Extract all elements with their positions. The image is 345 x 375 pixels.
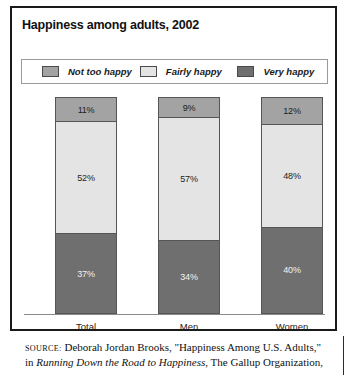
x-axis-label-total: Total bbox=[55, 321, 117, 332]
legend-swatch-not-too-happy bbox=[42, 66, 59, 77]
chart-legend: Not too happy Fairly happy Very happy bbox=[21, 59, 328, 84]
bar-segment-not-too-happy: 11% bbox=[55, 97, 117, 122]
legend-label-very-happy: Very happy bbox=[263, 66, 314, 77]
legend-item-very-happy: Very happy bbox=[229, 66, 327, 77]
bar-segment-not-too-happy: 12% bbox=[261, 97, 323, 125]
bar-segment-very-happy: 40% bbox=[261, 228, 323, 314]
bar-segment-value: 48% bbox=[283, 171, 300, 181]
bar-segment-not-too-happy: 9% bbox=[158, 97, 220, 118]
source-line-2: , The Gallup Organization, bbox=[205, 356, 323, 368]
bar-segment-value: 40% bbox=[283, 265, 300, 275]
stacked-bar-women: 12% 48% 40% bbox=[261, 97, 323, 314]
legend-swatch-fairly-happy bbox=[140, 66, 157, 77]
stacked-bar-men: 9% 57% 34% bbox=[158, 97, 220, 314]
legend-label-fairly-happy: Fairly happy bbox=[166, 66, 222, 77]
legend-label-not-too-happy: Not too happy bbox=[68, 66, 132, 77]
x-axis-label-women: Women bbox=[261, 321, 323, 332]
source-note: SOURCE: Deborah Jordan Brooks, "Happines… bbox=[25, 341, 330, 369]
bar-segment-value: 9% bbox=[183, 103, 196, 113]
bar-segment-very-happy: 34% bbox=[158, 241, 220, 314]
bar-segment-fairly-happy: 57% bbox=[158, 118, 220, 240]
legend-item-fairly-happy: Fairly happy bbox=[132, 66, 230, 77]
chart-plot-area: 11% 52% 37% 9% 57% 34% 12% bbox=[24, 96, 325, 332]
bar-segment-value: 57% bbox=[180, 174, 197, 184]
bar-segment-value: 34% bbox=[180, 272, 197, 282]
bar-segment-fairly-happy: 52% bbox=[55, 122, 117, 234]
stacked-bar-total: 11% 52% 37% bbox=[55, 97, 117, 314]
bar-segment-very-happy: 37% bbox=[55, 234, 117, 314]
page-title: Happiness among adults, 2002 bbox=[22, 18, 199, 32]
bar-segment-value: 11% bbox=[78, 105, 95, 115]
source-label: SOURCE: bbox=[25, 344, 62, 353]
figure-frame: Happiness among adults, 2002 Not too hap… bbox=[10, 6, 337, 331]
bar-segment-value: 52% bbox=[77, 173, 94, 183]
legend-item-not-too-happy: Not too happy bbox=[22, 66, 132, 77]
bar-segment-value: 37% bbox=[77, 269, 94, 279]
page-edge-rule bbox=[343, 336, 344, 375]
bar-segment-fairly-happy: 48% bbox=[261, 125, 323, 228]
source-publication-title: Running Down the Road to Happiness bbox=[36, 356, 205, 368]
x-axis-line bbox=[24, 314, 325, 315]
x-axis-label-men: Men bbox=[158, 321, 220, 332]
legend-swatch-very-happy bbox=[237, 66, 254, 77]
bar-segment-value: 12% bbox=[283, 106, 300, 116]
